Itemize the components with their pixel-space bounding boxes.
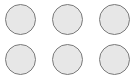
circle-r2-c3[interactable]	[99, 44, 130, 75]
circle-r1-c2[interactable]	[52, 4, 83, 35]
circle-r2-c1[interactable]	[5, 44, 36, 75]
circle-r1-c3[interactable]	[99, 4, 130, 35]
circle-r1-c1[interactable]	[5, 4, 36, 35]
circle-grid	[0, 0, 136, 83]
circle-r2-c2[interactable]	[52, 44, 83, 75]
